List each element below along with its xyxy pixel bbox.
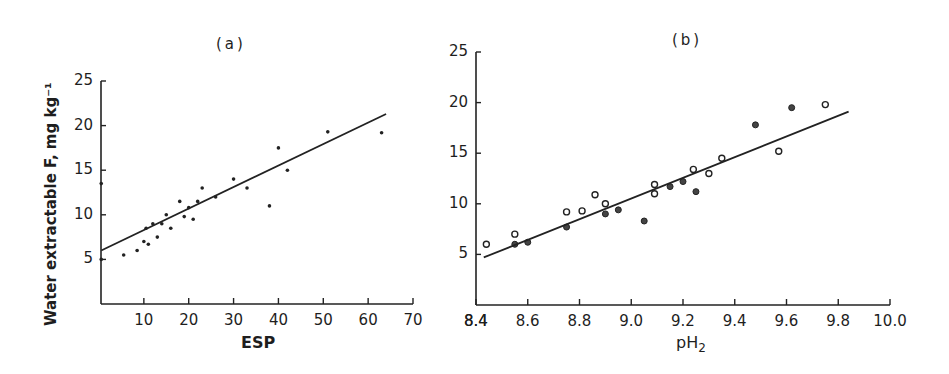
x-axis-label-a: ESP [241,333,275,352]
data-point [326,130,330,134]
data-point-open [652,191,658,197]
data-point [232,177,236,181]
x-tick-label: 10.0 [865,314,915,329]
figure: (a) (b) Water extractable F, mg kg⁻¹ ESP… [0,0,949,374]
y-tick-label: 20 [53,118,93,133]
data-point-filled [602,211,608,217]
data-point-open [512,231,518,237]
x-tick-label: 50 [298,313,348,328]
data-point-open [690,166,696,172]
data-point [99,182,103,186]
data-point-open [822,102,828,108]
data-point [182,215,186,219]
x-tick-label: 8.4 [451,314,501,329]
data-point-open [564,209,570,215]
y-tick-label: 5 [428,246,468,261]
data-point-open [719,155,725,161]
data-point-open [706,170,712,176]
x-axis-label-b-main: pH [676,333,698,352]
x-tick-label: 10 [119,313,169,328]
data-point-filled [615,207,621,213]
data-point [135,249,139,253]
data-point [156,235,160,239]
data-point [277,146,281,150]
data-point [147,242,151,246]
y-tick-label: 10 [53,207,93,222]
y-tick-label: 25 [53,73,93,88]
data-point [380,131,384,135]
x-axis-label-b-subscript: 2 [698,341,706,355]
x-axis-label-b: pH2 [676,333,706,352]
data-point-filled [789,105,795,111]
data-point-filled [693,189,699,195]
x-tick-label: 9.0 [606,314,656,329]
x-tick-label: 9.6 [762,314,812,329]
data-point-open [602,201,608,207]
x-tick-label: 9.4 [710,314,760,329]
y-tick-label: 5 [53,251,93,266]
panel-a-title: (a) [216,35,246,53]
x-tick-label: 30 [209,313,259,328]
x-tick-label: 8.8 [555,314,605,329]
data-point [191,217,195,221]
regression-line [484,112,849,258]
data-point [164,213,168,217]
data-point [99,258,103,262]
x-tick-label: 8.6 [503,314,553,329]
x-tick-label: 40 [253,313,303,328]
y-tick-label: 25 [428,44,468,59]
data-point-filled [641,218,647,224]
data-point-open [579,208,585,214]
data-point-open [652,182,658,188]
data-point [142,240,146,244]
data-point [245,186,249,190]
x-tick-label: 20 [164,313,214,328]
regression-line [101,114,386,250]
x-tick-label: 9.2 [658,314,708,329]
data-point-open [483,241,489,247]
y-tick-label: 15 [428,145,468,160]
data-point [169,226,173,230]
data-point-open [776,148,782,154]
data-point [200,186,204,190]
y-tick-label: 10 [428,196,468,211]
x-tick-label: 9.8 [813,314,863,329]
panel-b-title: (b) [672,31,702,49]
y-tick-label: 15 [53,162,93,177]
data-point-open [592,192,598,198]
x-tick-label: 70 [388,313,438,328]
y-tick-label: 20 [428,95,468,110]
data-point [268,204,272,208]
x-tick-label: 60 [343,313,393,328]
data-point [178,200,182,204]
data-point [286,168,290,172]
data-point [122,253,126,257]
data-point-filled [752,122,758,128]
